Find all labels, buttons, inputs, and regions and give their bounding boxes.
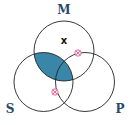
x-mark: x bbox=[61, 35, 68, 46]
marker-s-p bbox=[52, 89, 58, 95]
label-p: P bbox=[115, 102, 124, 116]
venn-diagram: M S P x bbox=[0, 0, 133, 125]
label-m: M bbox=[57, 3, 70, 17]
marker-m-p bbox=[75, 50, 81, 56]
circle-p bbox=[56, 53, 115, 112]
label-s: S bbox=[6, 102, 15, 116]
